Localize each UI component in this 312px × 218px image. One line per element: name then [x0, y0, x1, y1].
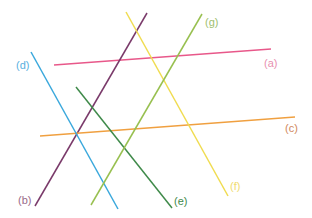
line-c	[40, 117, 295, 136]
label-e: (e)	[174, 195, 187, 207]
label-c: (c)	[285, 122, 298, 134]
label-b: (b)	[18, 194, 31, 206]
label-f: (f)	[230, 180, 240, 192]
lines-diagram: (a) (b) (c) (d) (e) (f) (g)	[0, 0, 312, 218]
label-g: (g)	[205, 16, 218, 28]
line-a	[54, 49, 271, 65]
label-a: (a)	[264, 57, 277, 69]
label-d: (d)	[16, 59, 29, 71]
line-b	[35, 13, 147, 206]
